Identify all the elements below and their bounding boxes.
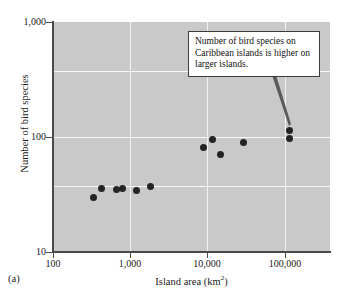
data-point [147, 183, 154, 190]
y-tick-100 [46, 137, 53, 138]
x-axis-title-suffix: ) [224, 276, 228, 287]
data-point [200, 144, 207, 151]
x-ticklabel-10000: 10,000 [193, 259, 221, 269]
data-point [209, 136, 216, 143]
x-ticklabel-1000: 1,000 [119, 259, 142, 269]
x-axis-title: Island area (km2) [53, 274, 330, 287]
y-tick-1000 [46, 22, 53, 23]
y-ticklabel-10: 10 [36, 247, 46, 257]
data-point [217, 151, 224, 158]
data-point [119, 185, 126, 192]
figure-panel: 1,000 100 10 100 1,000 10,000 100,000 Nu… [0, 0, 345, 301]
data-point [286, 127, 293, 134]
x-axis-line [52, 251, 331, 253]
x-ticklabel-100000: 100,000 [269, 259, 302, 269]
y-axis-title: Number of bird species [19, 44, 30, 204]
data-point [90, 194, 97, 201]
callout-annotation: Number of bird species on Caribbean isla… [188, 31, 320, 77]
y-ticklabel-100: 100 [31, 132, 46, 142]
y-ticklabel-1000: 1,000 [24, 17, 47, 27]
panel-label: (a) [8, 273, 20, 284]
y-tick-10 [46, 252, 53, 253]
x-axis-title-text: Island area (km [155, 276, 220, 287]
x-ticklabel-100: 100 [46, 259, 61, 269]
gridline-y-30 [53, 186, 330, 187]
